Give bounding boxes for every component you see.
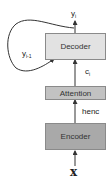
attention-label: Attention: [60, 89, 92, 98]
decoder-label: Decoder: [60, 42, 90, 51]
prev-y-label: yi-1: [22, 50, 32, 59]
encoder-node: Encoder: [45, 123, 106, 150]
henc-label: henc: [82, 108, 99, 116]
decoder-node: Decoder: [45, 33, 106, 60]
context-c-label: ci: [85, 68, 90, 77]
output-y-label: yi: [71, 10, 76, 19]
input-x-label: x: [70, 166, 77, 178]
encoder-label: Encoder: [61, 132, 91, 141]
attention-node: Attention: [45, 86, 106, 100]
